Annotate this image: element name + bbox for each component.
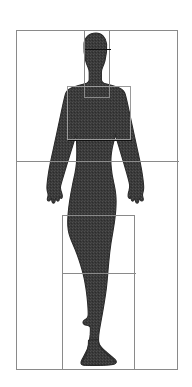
diagram-canvas: Female body silhouette with measurement … <box>0 0 192 387</box>
body-measurement-diagram <box>0 0 192 387</box>
